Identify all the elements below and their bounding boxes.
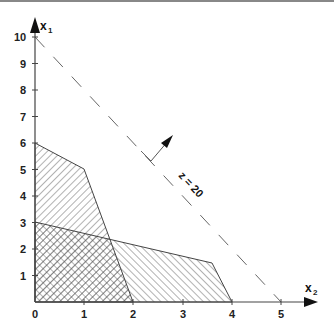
x2-axis-label: x [305, 281, 312, 295]
x2-tick-3: 3 [180, 308, 186, 320]
x1-tick-1: 1 [20, 270, 26, 282]
x1-tick-2: 2 [20, 243, 26, 255]
x2-tick-2: 2 [130, 308, 136, 320]
x1-axis-subscript: 1 [48, 26, 53, 35]
x1-tick-4: 4 [20, 190, 27, 202]
x2-tick-1: 1 [81, 308, 87, 320]
objective-label: z = 20 [177, 169, 206, 199]
x2-axis-arrow-icon [304, 297, 318, 307]
x1-axis-arrow-icon [30, 17, 40, 33]
gradient-arrow-head [161, 135, 173, 148]
gradient-arrow-base [141, 151, 151, 161]
x1-axis-label: x [40, 19, 47, 33]
x1-tick-7: 7 [20, 111, 26, 123]
x1-tick-3: 3 [20, 217, 26, 229]
lp-diagram: z = 20 x 2 x 1 0 1 2 3 4 5 1 2 3 4 5 6 7… [0, 0, 334, 336]
x2-axis-subscript: 2 [313, 288, 318, 297]
x1-tick-8: 8 [20, 84, 26, 96]
x1-tick-9: 9 [20, 58, 26, 70]
x1-tick-5: 5 [20, 164, 26, 176]
x2-tick-4: 4 [229, 308, 236, 320]
x1-tick-10: 10 [14, 31, 26, 43]
x2-tick-0: 0 [32, 308, 38, 320]
x1-tick-6: 6 [20, 137, 26, 149]
x2-tick-5: 5 [278, 308, 284, 320]
